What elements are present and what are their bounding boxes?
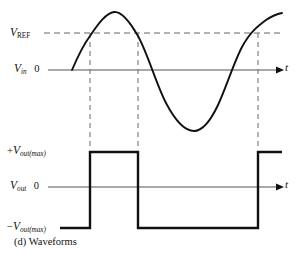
label-vout-max-negative: −Vout(max) <box>7 221 46 233</box>
label-time-axis-top: t <box>285 62 288 74</box>
label-vout-max-negative-symbol: V <box>13 220 20 232</box>
label-vout-symbol: V <box>10 179 17 191</box>
figure-caption: (d) Waveforms <box>14 236 77 247</box>
label-vin: Vin 0 <box>14 63 40 75</box>
label-vin-value: 0 <box>34 63 39 74</box>
label-vout-max-negative-subscript: out(max) <box>20 226 46 234</box>
waveform-figure: VREF Vin 0 t +Vout(max) Vout 0 −Vout(max… <box>0 0 300 264</box>
label-vref-symbol: V <box>10 26 17 38</box>
label-vin-symbol: V <box>14 62 21 74</box>
label-vout-value: 0 <box>34 180 39 191</box>
top-time-axis <box>48 66 284 73</box>
label-vout-max-positive: +Vout(max) <box>7 145 46 157</box>
label-vref-subscript: REF <box>17 32 30 40</box>
input-sine-waveform <box>72 12 282 131</box>
label-time-axis-bottom: t <box>285 179 288 191</box>
label-vout-max-positive-subscript: out(max) <box>20 150 46 158</box>
bottom-time-axis <box>48 183 284 190</box>
label-vref: VREF <box>10 27 30 39</box>
label-vout: Vout 0 <box>10 180 39 192</box>
label-vin-subscript: in <box>21 68 27 76</box>
label-time-axis-top-text: t <box>285 61 288 73</box>
label-vout-subscript: out <box>17 185 26 193</box>
label-vout-max-positive-symbol: V <box>13 144 20 156</box>
label-time-axis-bottom-text: t <box>285 178 288 190</box>
output-square-waveform <box>60 152 282 228</box>
